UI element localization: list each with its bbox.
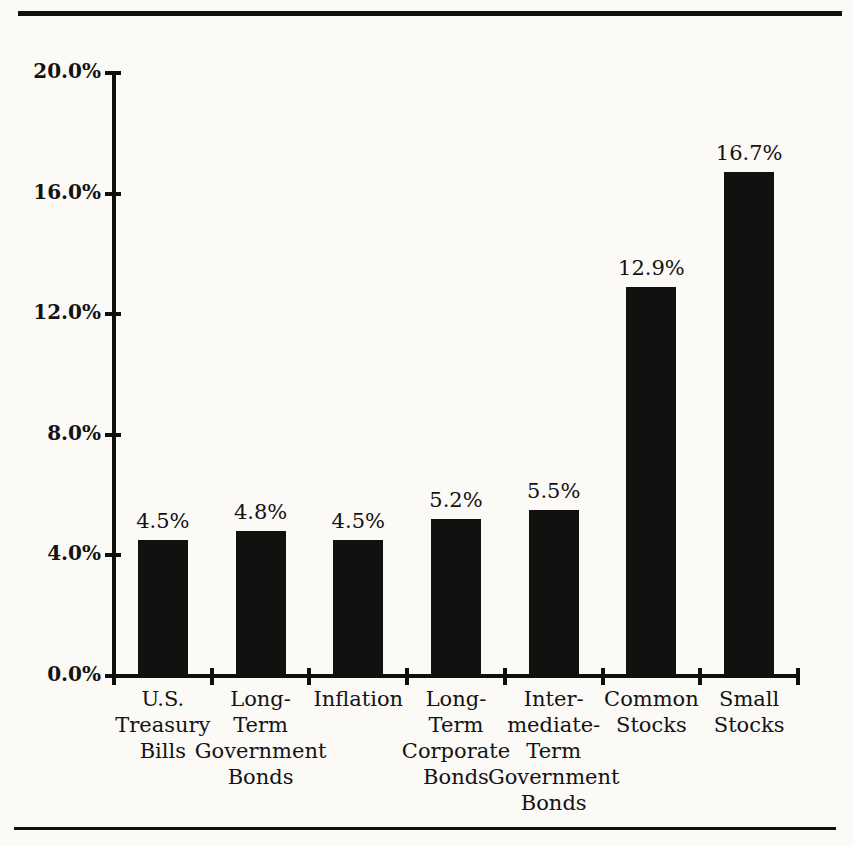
y-axis-tick: [105, 433, 121, 437]
y-axis-tick: [105, 192, 121, 196]
x-axis-tick: [210, 668, 214, 685]
x-axis-tick: [601, 668, 605, 685]
x-axis-tick: [307, 668, 311, 685]
x-axis-tick: [503, 668, 507, 685]
x-axis-category-label-line: Bonds: [484, 790, 624, 816]
y-axis-tick-label: 16.0%: [3, 180, 101, 204]
figure-container: 0.0%4.0%8.0%12.0%16.0%20.0% 4.5%4.8%4.5%…: [0, 0, 853, 846]
x-axis-category-label-line: Government: [191, 738, 331, 764]
x-axis-category-label: SmallStocks: [679, 686, 819, 738]
bar-value-label: 16.7%: [689, 141, 809, 165]
x-axis-category-label-line: Term: [484, 738, 624, 764]
bar-value-label: 5.5%: [494, 479, 614, 503]
y-axis-line: [112, 71, 116, 678]
x-axis-tick: [405, 668, 409, 685]
bar: [236, 531, 286, 676]
x-axis-tick: [698, 668, 702, 685]
y-axis-tick-label: 4.0%: [3, 541, 101, 565]
bar-value-label: 12.9%: [591, 256, 711, 280]
y-axis-tick-label: 8.0%: [3, 421, 101, 445]
x-axis-category-label-line: Bonds: [191, 764, 331, 790]
x-axis-tick: [796, 668, 800, 685]
x-axis-category-label-line: Stocks: [679, 712, 819, 738]
y-axis-tick: [105, 71, 121, 75]
x-axis-category-label-line: Term: [191, 712, 331, 738]
bar: [333, 540, 383, 676]
y-axis-tick-label: 20.0%: [3, 59, 101, 83]
bar-value-label: 4.5%: [298, 509, 418, 533]
x-axis-category-label-line: Government: [484, 764, 624, 790]
bar: [626, 287, 676, 676]
y-axis-tick-label: 0.0%: [3, 662, 101, 686]
bar: [724, 172, 774, 676]
x-axis-category-label-line: Small: [679, 686, 819, 712]
bar: [138, 540, 188, 676]
bar-chart-plot-area: 0.0%4.0%8.0%12.0%16.0%20.0% 4.5%4.8%4.5%…: [0, 0, 853, 846]
bar: [431, 519, 481, 676]
y-axis-tick: [105, 312, 121, 316]
y-axis-tick-label: 12.0%: [3, 300, 101, 324]
x-axis-tick: [112, 668, 116, 685]
bar: [529, 510, 579, 676]
y-axis-tick: [105, 553, 121, 557]
